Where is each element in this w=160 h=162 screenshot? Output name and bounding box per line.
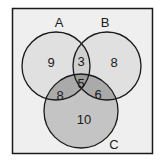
region-c-only: 10 — [77, 112, 91, 127]
region-a-b-c: 5 — [77, 76, 84, 91]
set-label-a: A — [55, 15, 64, 30]
venn-diagram: A B C 9 8 3 5 8 6 10 — [0, 0, 160, 162]
region-b-c-only: 6 — [94, 87, 101, 102]
region-a-b-only: 3 — [77, 54, 84, 69]
region-b-only: 8 — [110, 55, 117, 70]
region-a-c-only: 8 — [56, 88, 63, 103]
set-label-c: C — [109, 137, 118, 152]
set-label-b: B — [101, 15, 110, 30]
region-a-only: 9 — [47, 55, 54, 70]
